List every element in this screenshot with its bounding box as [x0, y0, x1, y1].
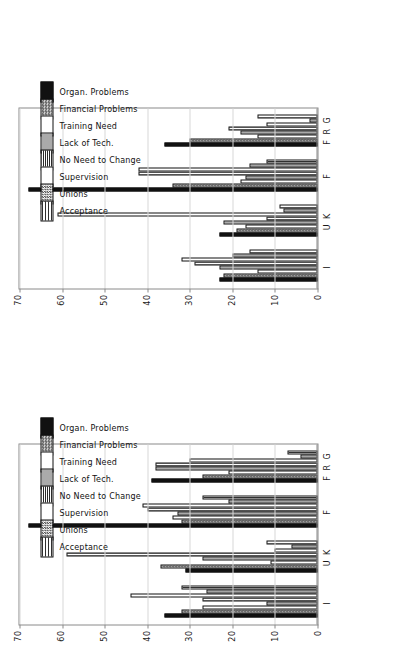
legend-swatch-icon	[40, 200, 53, 221]
legend-item[interactable]: Supervision	[40, 506, 120, 519]
legend-label: Organ. Problems	[59, 423, 128, 432]
legend-item[interactable]: Training Need	[40, 455, 120, 468]
legend-item[interactable]: Organ. Problems	[40, 85, 120, 98]
bar[interactable]	[249, 250, 317, 254]
bar[interactable]	[202, 557, 317, 561]
bar[interactable]	[138, 168, 317, 172]
bar[interactable]	[266, 217, 317, 221]
bar[interactable]	[270, 561, 317, 565]
bar[interactable]	[283, 209, 317, 213]
bar[interactable]	[249, 164, 317, 168]
bar[interactable]	[228, 127, 317, 131]
bar[interactable]	[160, 565, 318, 569]
bar[interactable]	[181, 610, 317, 614]
y-axis-tick-label: 30	[185, 630, 194, 641]
bar[interactable]	[257, 270, 317, 274]
bar[interactable]	[194, 262, 317, 266]
bar[interactable]	[266, 123, 317, 127]
y-axis-tick-label: 10	[271, 630, 280, 641]
bar[interactable]	[155, 463, 317, 467]
y-axis-tick-label: 40	[142, 630, 151, 641]
legend-item[interactable]: Acceptance	[40, 204, 120, 217]
bar[interactable]	[130, 594, 317, 598]
legend-item[interactable]: Organ. Problems	[40, 421, 120, 434]
legend-item[interactable]: Unions	[40, 187, 120, 200]
y-axis-tick-mark	[317, 624, 318, 628]
y-axis-tick-mark	[62, 288, 63, 292]
legend-item[interactable]: Lack of Tech.	[40, 472, 120, 485]
bar[interactable]	[291, 545, 317, 549]
bar[interactable]	[202, 475, 317, 479]
legend-item[interactable]: Financial Problems	[40, 438, 120, 451]
bar[interactable]	[164, 614, 317, 618]
legend-label: Lack of Tech.	[59, 474, 113, 483]
bar[interactable]	[181, 586, 317, 590]
bar[interactable]	[236, 229, 317, 233]
y-axis-tick-mark	[274, 288, 275, 292]
y-axis-tick-mark	[19, 288, 20, 292]
bar[interactable]	[223, 221, 317, 225]
bar[interactable]	[142, 504, 317, 508]
bar[interactable]	[266, 541, 317, 545]
legend-item[interactable]: Financial Problems	[40, 102, 120, 115]
bar[interactable]	[202, 496, 317, 500]
bar[interactable]	[228, 471, 317, 475]
bar[interactable]	[138, 172, 317, 176]
bar[interactable]	[219, 266, 317, 270]
bar[interactable]	[219, 233, 317, 237]
bar[interactable]	[164, 143, 317, 147]
bar[interactable]	[287, 451, 317, 455]
bar[interactable]	[206, 590, 317, 594]
legend-swatch-icon	[40, 536, 53, 557]
bar[interactable]	[185, 569, 317, 573]
legend-label: Training Need	[59, 121, 117, 130]
bar[interactable]	[172, 516, 317, 520]
y-axis-tick-label: 60	[56, 294, 65, 305]
legend-left: Organ. ProblemsFinancial ProblemsTrainin…	[40, 341, 176, 421]
bar[interactable]	[257, 135, 317, 139]
bar[interactable]	[172, 184, 317, 188]
bar[interactable]	[240, 180, 317, 184]
legend-item[interactable]: No Need to Change	[40, 489, 120, 502]
legend-item[interactable]: Supervision	[40, 170, 120, 183]
legend-item[interactable]: No Need to Change	[40, 153, 120, 166]
legend-label: No Need to Change	[59, 491, 140, 500]
category-label: U K	[322, 198, 331, 244]
bar[interactable]	[189, 459, 317, 463]
legend-items-right: Organ. ProblemsFinancial ProblemsTrainin…	[40, 85, 120, 217]
bar[interactable]	[219, 278, 317, 282]
bar[interactable]	[266, 160, 317, 164]
y-axis-tick-mark	[104, 288, 105, 292]
bar[interactable]	[279, 205, 317, 209]
legend-item[interactable]: Acceptance	[40, 540, 120, 553]
y-axis-tick-mark	[274, 624, 275, 628]
bar[interactable]	[177, 512, 317, 516]
bar[interactable]	[245, 225, 317, 229]
legend-label: Lack of Tech.	[59, 138, 113, 147]
bar[interactable]	[181, 258, 317, 262]
bar[interactable]	[274, 549, 317, 553]
gridline	[19, 444, 20, 624]
legend-label: Supervision	[59, 508, 108, 517]
bar[interactable]	[151, 479, 317, 483]
bar[interactable]	[181, 520, 317, 524]
bar[interactable]	[202, 598, 317, 602]
bar[interactable]	[300, 455, 317, 459]
bar[interactable]	[202, 606, 317, 610]
bar[interactable]	[223, 274, 317, 278]
bar[interactable]	[228, 500, 317, 504]
legend-label: Supervision	[59, 172, 108, 181]
y-axis-tick-mark	[19, 624, 20, 628]
bar[interactable]	[155, 467, 317, 471]
legend-label: Unions	[59, 189, 87, 198]
legend-item[interactable]: Training Need	[40, 119, 120, 132]
bar[interactable]	[189, 139, 317, 143]
bar[interactable]	[245, 176, 317, 180]
bar[interactable]	[266, 602, 317, 606]
y-axis-tick-label: 70	[14, 630, 23, 641]
bar[interactable]	[257, 115, 317, 119]
legend-item[interactable]: Unions	[40, 523, 120, 536]
bar[interactable]	[240, 131, 317, 135]
y-axis-tick-mark	[104, 624, 105, 628]
legend-item[interactable]: Lack of Tech.	[40, 136, 120, 149]
